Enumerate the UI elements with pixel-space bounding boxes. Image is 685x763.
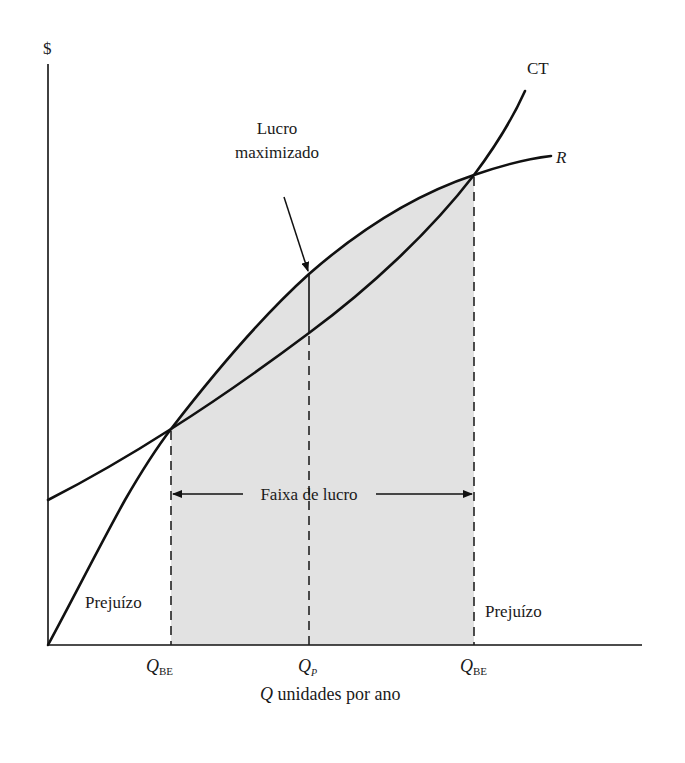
tick-qbe-left-sub: BE <box>159 665 173 677</box>
profit-shaded-region <box>171 175 474 645</box>
tick-qp-main: Q <box>298 656 311 676</box>
x-axis-label-rest: unidades por ano <box>273 684 400 704</box>
tick-qbe-left-main: Q <box>146 656 159 676</box>
y-axis-label: $ <box>43 39 52 58</box>
lucro-maximizado-arrow <box>284 197 308 271</box>
tick-qbe-left: QBE <box>146 656 173 677</box>
x-axis-label-q: Q <box>260 684 273 704</box>
tick-qp-sub: P <box>310 667 317 678</box>
lucro-maximizado-label-line1: Lucro <box>257 119 298 138</box>
tick-qbe-right-sub: BE <box>473 665 487 677</box>
tick-qp: QP <box>298 656 317 678</box>
x-axis-label: Q unidades por ano <box>260 684 400 704</box>
faixa-de-lucro-label: Faixa de lucro <box>260 485 357 504</box>
prejuizo-left-label: Prejuízo <box>85 593 142 612</box>
lucro-maximizado-label-line2: maximizado <box>235 143 319 162</box>
break-even-chart: $ CT R Lucro maximizado Faixa de lucro P… <box>0 0 685 763</box>
r-label: R <box>555 148 567 167</box>
tick-qbe-right-main: Q <box>460 656 473 676</box>
tick-qbe-right: QBE <box>460 656 487 677</box>
ct-label: CT <box>527 59 549 78</box>
prejuizo-right-label: Prejuízo <box>485 602 542 621</box>
